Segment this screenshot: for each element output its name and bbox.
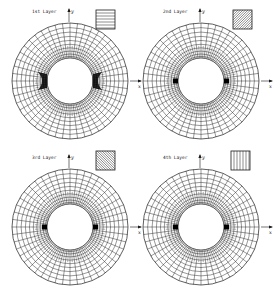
fiber-hatch [77, 151, 151, 170]
layer-mesh-figure: yx1st Layer yx2nd Layer yx3rd Layer yx4t… [0, 0, 278, 290]
fiber-orientation-legend [96, 10, 115, 29]
x-axis-label: x [269, 229, 272, 235]
panel-layer-2: yx2nd Layer [143, 8, 278, 139]
y-axis-label: y [201, 8, 205, 15]
y-axis-label: y [70, 8, 74, 15]
fiber-orientation-legend [214, 10, 278, 29]
annular-mesh [143, 23, 259, 139]
x-axis-label: x [138, 83, 141, 89]
y-axis-label: y [201, 154, 205, 161]
annular-mesh [143, 169, 259, 285]
fiber-hatch [96, 13, 115, 28]
damage-zone [173, 79, 229, 84]
fiber-orientation-legend [77, 151, 151, 170]
panel-title: 2nd Layer [163, 9, 188, 14]
annular-mesh [12, 23, 128, 139]
x-axis-label: x [138, 229, 141, 235]
fiber-orientation-legend [231, 151, 250, 170]
damage-zone [42, 225, 98, 230]
y-axis-label: y [70, 154, 74, 161]
panel-title: 1st Layer [32, 9, 57, 14]
panel-title: 4th Layer [163, 155, 188, 160]
fiber-hatch [214, 10, 278, 29]
x-axis-label: x [269, 83, 272, 89]
panel-title: 3rd Layer [32, 155, 57, 160]
damage-zone [173, 225, 229, 230]
fiber-hatch [234, 151, 249, 170]
panel-layer-3: yx3rd Layer [12, 151, 151, 285]
panel-layer-4: yx4th Layer [143, 151, 273, 285]
panel-layer-1: yx1st Layer [12, 8, 142, 139]
annular-mesh [12, 169, 128, 285]
